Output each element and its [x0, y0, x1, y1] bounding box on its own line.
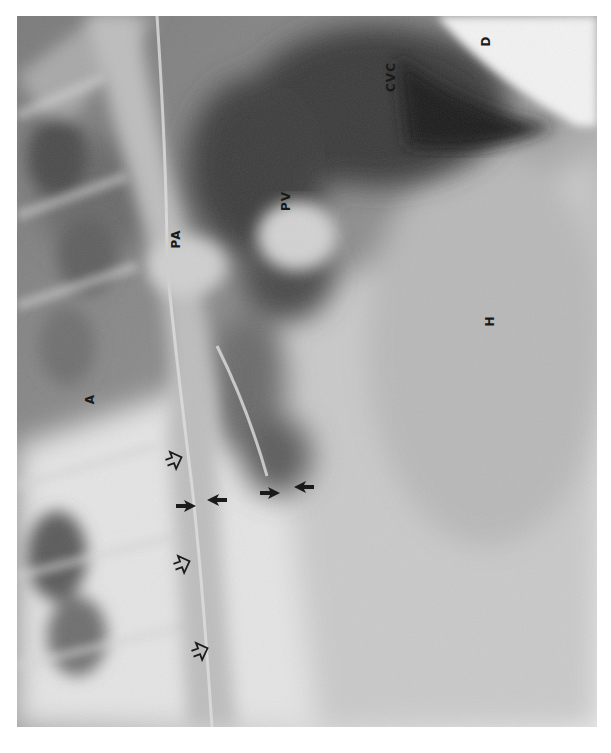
label-caudal-vena-cava: CVC: [384, 62, 398, 92]
solid-arrow-icon: [260, 487, 280, 499]
solid-arrow-icon: [176, 500, 196, 512]
label-pulmonary-vein: PV: [279, 191, 293, 211]
open-arrow-icon: [165, 449, 183, 471]
radiograph-graphic: [17, 16, 597, 727]
label-aorta: A: [83, 394, 97, 404]
open-arrow-icon: [191, 640, 209, 662]
solid-arrow-icon: [294, 481, 314, 493]
open-arrow-icon: [173, 553, 191, 575]
solid-arrow-icon: [207, 494, 227, 506]
label-diaphragm: D: [479, 36, 493, 47]
radiograph-image: [17, 16, 597, 727]
label-heart: H: [483, 315, 497, 326]
label-pulmonary-artery: PA: [169, 230, 183, 249]
